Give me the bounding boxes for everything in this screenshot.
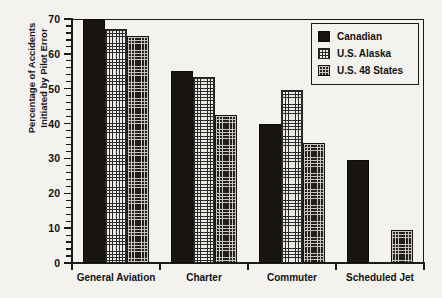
y-axis-title-line-1: Percentage of Accidents — [26, 23, 38, 134]
y-axis-tick-label-0: 0 — [20, 258, 60, 268]
y-axis-minor-tick — [66, 179, 71, 180]
y-axis-minor-tick — [66, 221, 71, 222]
y-axis-minor-tick — [66, 186, 71, 187]
y-axis-tick-60 — [64, 53, 71, 55]
bar-commuter-u-s-48-states — [303, 143, 325, 263]
bar-general-aviation-u-s-48-states — [127, 36, 149, 263]
bar-commuter-canadian — [259, 124, 281, 263]
y-axis-minor-tick — [66, 144, 71, 145]
y-axis-tick-label-60: 60 — [20, 49, 60, 59]
y-axis-minor-tick — [66, 74, 71, 75]
y-axis-tick-10 — [64, 227, 71, 229]
legend: Canadian U.S. Alaska U.S. 48 States — [311, 23, 419, 85]
x-axis-tick — [335, 263, 337, 270]
y-axis-tick-label-10: 10 — [20, 223, 60, 233]
y-axis-minor-tick — [66, 248, 71, 249]
legend-label-us-alaska: U.S. Alaska — [337, 48, 391, 59]
y-axis-tick-20 — [64, 193, 71, 195]
bar-chart: Percentage of Accidents Initiated by Pil… — [0, 0, 442, 298]
legend-item-canadian[interactable]: Canadian — [318, 28, 412, 45]
bar-charter-u-s-alaska — [193, 77, 215, 263]
x-axis-tick — [159, 263, 161, 270]
bar-general-aviation-u-s-alaska — [105, 29, 127, 263]
y-axis-tick-label-30: 30 — [20, 153, 60, 163]
legend-swatch-icon-us-48-states — [318, 65, 330, 76]
y-axis-tick-30 — [64, 158, 71, 160]
x-axis-label-commuter: Commuter — [267, 272, 317, 283]
y-axis-minor-tick — [66, 241, 71, 242]
x-axis-label-general-aviation: General Aviation — [77, 272, 156, 283]
y-axis-title-line-2: Initiated by Pilot Error — [38, 23, 50, 134]
y-axis-minor-tick — [66, 95, 71, 96]
bar-scheduled-jet-u-s-48-states — [391, 230, 413, 263]
bar-scheduled-jet-canadian — [347, 160, 369, 263]
y-axis-minor-tick — [66, 207, 71, 208]
x-axis-label-scheduled-jet: Scheduled Jet — [346, 272, 414, 283]
y-axis-tick-label-40: 40 — [20, 119, 60, 129]
y-axis-tick-label-20: 20 — [20, 188, 60, 198]
bar-charter-u-s-48-states — [215, 115, 237, 263]
y-axis-minor-tick — [66, 25, 71, 26]
y-axis-tick-70 — [64, 18, 71, 20]
x-axis-tick — [71, 263, 73, 270]
y-axis-minor-tick — [66, 255, 71, 256]
y-axis-minor-tick — [66, 172, 71, 173]
bar-commuter-u-s-alaska — [281, 90, 303, 263]
y-axis-minor-tick — [66, 137, 71, 138]
y-axis-tick-label-70: 70 — [20, 14, 60, 24]
legend-label-canadian: Canadian — [337, 31, 382, 42]
legend-swatch-icon-canadian — [318, 31, 330, 42]
y-axis-minor-tick — [66, 130, 71, 131]
y-axis-minor-tick — [66, 46, 71, 47]
legend-item-us-alaska[interactable]: U.S. Alaska — [318, 45, 412, 62]
y-axis-minor-tick — [66, 235, 71, 236]
y-axis-minor-tick — [66, 214, 71, 215]
y-axis-minor-tick — [66, 165, 71, 166]
y-axis-minor-tick — [66, 81, 71, 82]
y-axis-minor-tick — [66, 39, 71, 40]
x-axis-tick — [423, 263, 425, 270]
bar-charter-canadian — [171, 71, 193, 263]
legend-item-us-48-states[interactable]: U.S. 48 States — [318, 62, 412, 79]
y-axis-tick-40 — [64, 123, 71, 125]
y-axis-minor-tick — [66, 200, 71, 201]
y-axis-minor-tick — [66, 102, 71, 103]
y-axis-tick-label-50: 50 — [20, 84, 60, 94]
y-axis-minor-tick — [66, 32, 71, 33]
x-axis-tick — [247, 263, 249, 270]
y-axis-minor-tick — [66, 116, 71, 117]
legend-label-us-48-states: U.S. 48 States — [337, 65, 403, 76]
y-axis-minor-tick — [66, 60, 71, 61]
y-axis-minor-tick — [66, 67, 71, 68]
y-axis-tick-50 — [64, 88, 71, 90]
y-axis-tick-0 — [64, 262, 71, 264]
y-axis-minor-tick — [66, 151, 71, 152]
legend-swatch-icon-us-alaska — [318, 48, 330, 59]
y-axis-minor-tick — [66, 109, 71, 110]
bar-general-aviation-canadian — [83, 19, 105, 263]
x-axis-label-charter: Charter — [186, 272, 222, 283]
